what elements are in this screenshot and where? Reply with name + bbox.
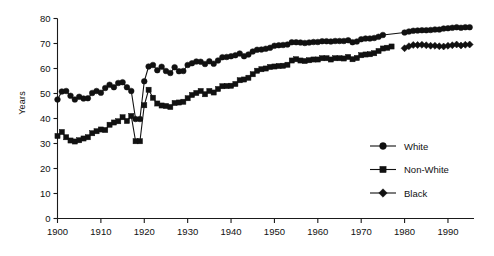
svg-text:1920: 1920 <box>134 226 155 237</box>
svg-text:40: 40 <box>40 113 51 124</box>
svg-text:1970: 1970 <box>351 226 372 237</box>
svg-text:1940: 1940 <box>220 226 241 237</box>
y-axis-label: Years <box>17 73 27 133</box>
legend-item-white: White <box>370 141 428 152</box>
line-chart-plot: 01020304050607080 1900191019201930194019… <box>0 0 494 256</box>
svg-text:50: 50 <box>40 88 51 99</box>
svg-text:1960: 1960 <box>307 226 328 237</box>
svg-text:1930: 1930 <box>177 226 198 237</box>
x-tick-labels: 1900191019201930194019501960197019801990 <box>47 226 459 237</box>
svg-text:1950: 1950 <box>264 226 285 237</box>
y-tick-labels: 01020304050607080 <box>40 13 51 224</box>
chart-series-layer <box>55 24 474 144</box>
series-white <box>55 24 473 121</box>
svg-text:10: 10 <box>40 188 51 199</box>
svg-text:0: 0 <box>45 213 50 224</box>
svg-text:1980: 1980 <box>394 226 415 237</box>
series-black <box>401 41 473 52</box>
legend-label: White <box>404 141 428 152</box>
svg-text:30: 30 <box>40 138 51 149</box>
svg-text:1900: 1900 <box>47 226 68 237</box>
svg-text:1990: 1990 <box>437 226 458 237</box>
svg-text:70: 70 <box>40 38 51 49</box>
chart-legend: WhiteNon-WhiteBlack <box>370 141 449 199</box>
legend-label: Black <box>404 188 427 199</box>
legend-item-non-white: Non-White <box>370 164 449 175</box>
legend-item-black: Black <box>370 188 427 199</box>
legend-label: Non-White <box>404 164 449 175</box>
svg-text:20: 20 <box>40 163 51 174</box>
chart-figure: Years 01020304050607080 1900191019201930… <box>0 0 494 256</box>
svg-text:1910: 1910 <box>90 226 111 237</box>
svg-text:60: 60 <box>40 63 51 74</box>
svg-text:80: 80 <box>40 13 51 24</box>
